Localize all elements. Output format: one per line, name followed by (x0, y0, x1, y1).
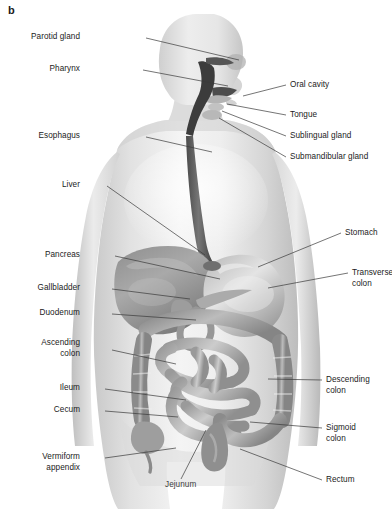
label-gallbladder: Gallbladder (38, 283, 80, 294)
label-cecum: Cecum (54, 405, 80, 416)
panel-letter: b (8, 5, 15, 16)
label-sigmoid-colon: Sigmoid colon (326, 423, 356, 444)
label-ascending-colon: Ascending colon (41, 338, 80, 359)
label-ileum: Ileum (60, 383, 80, 394)
label-descending-colon: Descending colon (326, 375, 370, 396)
label-transverse-colon: Transverse colon (352, 268, 392, 289)
label-vermiform-appendix: Vermiform appendix (42, 452, 80, 473)
label-oral-cavity: Oral cavity (290, 80, 329, 91)
label-liver: Liver (62, 180, 80, 191)
label-jejunum: Jejunum (165, 480, 196, 491)
label-duodenum: Duodenum (40, 308, 80, 319)
label-parotid-gland: Parotid gland (31, 32, 80, 43)
label-sublingual-gland: Sublingual gland (290, 131, 351, 142)
label-esophagus: Esophagus (39, 131, 80, 142)
label-rectum: Rectum (326, 475, 355, 486)
label-submandibular-gland: Submandibular gland (290, 152, 368, 163)
digestive-system-figure: b Parotid glandPharynxEsophagusLiverPanc… (0, 0, 392, 509)
label-pancreas: Pancreas (45, 250, 80, 261)
label-pharynx: Pharynx (50, 64, 80, 75)
label-tongue: Tongue (290, 110, 317, 121)
label-stomach: Stomach (345, 228, 378, 239)
